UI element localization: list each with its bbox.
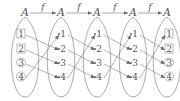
element-label: 2: [60, 44, 66, 54]
element-label: 3: [96, 58, 102, 68]
mapping-arrow: [104, 35, 131, 50]
element-label: 3: [166, 58, 172, 68]
f-label: f: [147, 2, 153, 12]
f-label: f: [40, 2, 46, 12]
element-label: 4: [132, 72, 138, 82]
set-label: A: [128, 6, 137, 19]
element-label: 2: [166, 44, 172, 54]
element-label: 1: [166, 29, 172, 39]
element-label: 2: [18, 44, 24, 54]
mapping-arrow: [140, 35, 165, 50]
f-label: f: [76, 2, 82, 12]
set-label: A: [162, 6, 171, 19]
element-label: 1: [60, 29, 66, 39]
element-label: 3: [132, 58, 138, 68]
mapping-arrow: [140, 64, 165, 78]
element-label: 3: [18, 58, 24, 68]
set-label: A: [20, 6, 29, 19]
f-label: f: [112, 2, 118, 12]
element-label: 4: [60, 72, 66, 82]
mapping-arrow: [68, 35, 95, 50]
element-label: 3: [60, 58, 66, 68]
element-label: 2: [132, 44, 138, 54]
mapping-arrow: [140, 35, 165, 78]
mapping-arrow: [104, 35, 131, 78]
element-label: 1: [132, 29, 138, 39]
set-label: A: [56, 6, 65, 19]
function-iteration-diagram: ffff AAAAA12341234123412341234: [0, 0, 180, 101]
mapping-arrow: [26, 50, 59, 64]
mapping-arrow: [68, 35, 95, 78]
mapping-arrow: [104, 64, 131, 78]
mapping-arrow: [26, 35, 59, 78]
element-label: 4: [166, 72, 172, 82]
element-label: 2: [96, 44, 102, 54]
mapping-arrow: [26, 35, 59, 50]
element-nodes: AAAAA12341234123412341234: [17, 6, 174, 82]
mapping-arrow: [26, 64, 59, 78]
mapping-arrow: [68, 64, 95, 78]
element-label: 4: [96, 72, 102, 82]
set-label: A: [92, 6, 101, 19]
element-label: 1: [96, 29, 102, 39]
element-label: 4: [18, 72, 24, 82]
diagram-canvas: ffff AAAAA12341234123412341234: [0, 0, 180, 101]
element-label: 1: [18, 29, 24, 39]
